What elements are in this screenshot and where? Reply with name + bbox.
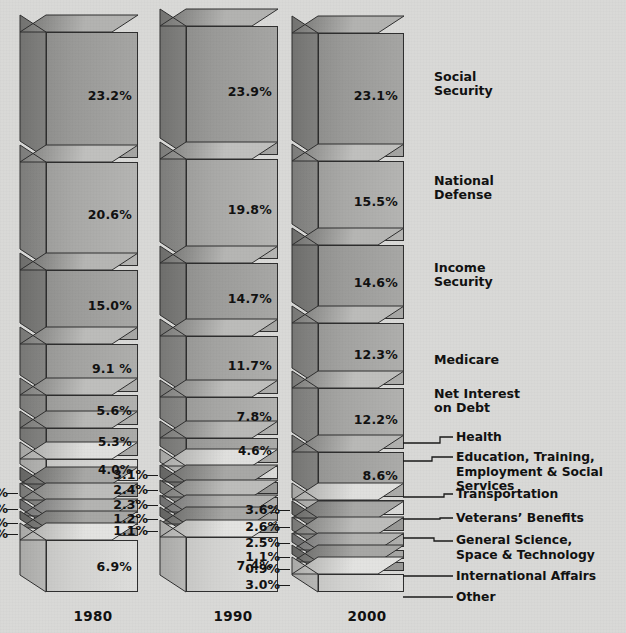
legend-label-other: Other — [456, 590, 496, 605]
legend-label-general-science: General Science, Space & Technology — [456, 533, 595, 562]
legend-label-transportation: Transportation — [456, 487, 558, 502]
budget-block-chart: Federal Budget Outlays by Category 23.2%… — [0, 0, 626, 633]
legend-label-net-interest: Net Interest on Debt — [434, 387, 520, 415]
legend-label-social-security: Social Security — [434, 70, 493, 98]
legend-label-income-security: Income Security — [434, 261, 493, 289]
legend-label-health: Health — [456, 430, 502, 445]
legend-label-international-affairs: International Affairs — [456, 569, 596, 584]
legend-label-national-defense: National Defense — [434, 174, 494, 202]
legend-label-veterans-benefits: Veterans’ Benefits — [456, 511, 584, 526]
legend-label-medicare: Medicare — [434, 353, 499, 367]
